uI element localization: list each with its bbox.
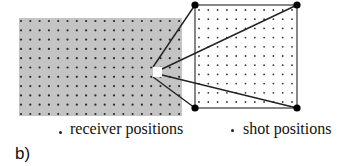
receiver-dot bbox=[39, 48, 41, 50]
shot-dot bbox=[207, 9, 209, 11]
shot-dot bbox=[207, 101, 209, 103]
receiver-dot bbox=[57, 94, 59, 96]
receiver-dot bbox=[104, 104, 106, 106]
receiver-dot bbox=[39, 66, 41, 68]
shot-dot bbox=[226, 46, 228, 48]
receiver-dot bbox=[141, 20, 143, 22]
shot-dot bbox=[198, 9, 200, 11]
receiver-dot bbox=[66, 57, 68, 59]
shot-dot bbox=[273, 46, 275, 48]
receiver-dot bbox=[94, 66, 96, 68]
receiver-dot bbox=[85, 76, 87, 78]
receiver-marker-square bbox=[153, 67, 162, 77]
receiver-dot bbox=[57, 57, 59, 59]
shot-dot bbox=[226, 64, 228, 66]
receiver-dot bbox=[178, 104, 180, 106]
shot-dot bbox=[282, 83, 284, 85]
receiver-dot bbox=[57, 39, 59, 41]
receiver-marker bbox=[153, 67, 162, 77]
receiver-dot bbox=[122, 94, 124, 96]
receiver-dot bbox=[178, 48, 180, 50]
receiver-dot bbox=[150, 29, 152, 31]
receiver-dot bbox=[150, 94, 152, 96]
receiver-dot bbox=[57, 29, 59, 31]
shot-dot bbox=[226, 18, 228, 20]
receiver-dot bbox=[94, 76, 96, 78]
receiver-dot bbox=[48, 66, 50, 68]
receiver-dot bbox=[169, 57, 171, 59]
receiver-dot bbox=[85, 94, 87, 96]
receiver-dot bbox=[104, 76, 106, 78]
receiver-dot bbox=[141, 76, 143, 78]
receiver-dot bbox=[20, 85, 22, 87]
shot-dot bbox=[207, 18, 209, 20]
receiver-dot bbox=[39, 76, 41, 78]
shot-dot bbox=[217, 101, 219, 103]
receiver-dot bbox=[141, 29, 143, 31]
acquisition-geometry-figure: receiver positions shot positions b) bbox=[0, 0, 347, 166]
shot-legend-dot-icon bbox=[231, 129, 234, 132]
receiver-dot bbox=[159, 39, 161, 41]
shot-dot bbox=[207, 55, 209, 57]
receiver-dot bbox=[132, 85, 134, 87]
receiver-dot bbox=[39, 104, 41, 106]
shot-dot bbox=[282, 46, 284, 48]
receiver-dot bbox=[178, 66, 180, 68]
receiver-dot bbox=[20, 113, 22, 115]
shot-dot bbox=[263, 46, 265, 48]
receiver-dot bbox=[66, 66, 68, 68]
shot-dot bbox=[273, 9, 275, 11]
receiver-dot bbox=[141, 113, 143, 115]
corner-dot-icon bbox=[191, 1, 198, 8]
receiver-dot bbox=[150, 57, 152, 59]
receiver-dot bbox=[48, 94, 50, 96]
receiver-dot bbox=[48, 85, 50, 87]
receiver-dot bbox=[57, 85, 59, 87]
shot-dot bbox=[291, 83, 293, 85]
receiver-dot bbox=[29, 57, 31, 59]
receiver-dot bbox=[29, 66, 31, 68]
shot-dot bbox=[273, 64, 275, 66]
receiver-dot bbox=[169, 29, 171, 31]
receiver-dot bbox=[29, 94, 31, 96]
receiver-dot bbox=[178, 113, 180, 115]
shot-dot bbox=[226, 9, 228, 11]
receiver-dot bbox=[57, 66, 59, 68]
receiver-dot bbox=[85, 113, 87, 115]
receiver-dot bbox=[20, 76, 22, 78]
shot-dot bbox=[291, 37, 293, 39]
shot-dot bbox=[217, 83, 219, 85]
shot-dot bbox=[254, 92, 256, 94]
receiver-dot bbox=[48, 104, 50, 106]
receiver-dot bbox=[150, 48, 152, 50]
receiver-dot bbox=[94, 20, 96, 22]
shot-dot bbox=[282, 64, 284, 66]
receiver-dot bbox=[76, 113, 78, 115]
receiver-dot bbox=[76, 29, 78, 31]
receiver-dot bbox=[141, 85, 143, 87]
receiver-dot bbox=[113, 104, 115, 106]
receiver-dot bbox=[178, 85, 180, 87]
receiver-dot bbox=[150, 113, 152, 115]
shot-dot bbox=[254, 55, 256, 57]
receiver-dot bbox=[29, 104, 31, 106]
receiver-dot bbox=[39, 20, 41, 22]
receiver-dot bbox=[20, 48, 22, 50]
receiver-dot bbox=[20, 20, 22, 22]
shot-dot bbox=[273, 92, 275, 94]
receiver-dot bbox=[39, 113, 41, 115]
receiver-dot bbox=[141, 104, 143, 106]
receiver-dot bbox=[94, 113, 96, 115]
receiver-dot bbox=[122, 104, 124, 106]
receiver-dot bbox=[178, 39, 180, 41]
receiver-dot bbox=[48, 29, 50, 31]
receiver-dot bbox=[76, 94, 78, 96]
shot-dot bbox=[254, 74, 256, 76]
receiver-dot bbox=[57, 20, 59, 22]
shot-dot bbox=[245, 83, 247, 85]
receiver-dot bbox=[76, 85, 78, 87]
shot-dot bbox=[291, 18, 293, 20]
shot-dot bbox=[198, 92, 200, 94]
receiver-dot bbox=[122, 66, 124, 68]
shot-dot bbox=[235, 101, 237, 103]
